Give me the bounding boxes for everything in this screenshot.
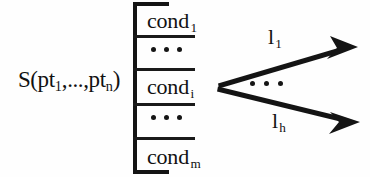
- upper-arrow-label-subscript: 1: [274, 36, 282, 51]
- arrow-group: [0, 0, 370, 177]
- lower-arrow-label: lh: [272, 110, 286, 134]
- lower-arrow-label-subscript: h: [278, 120, 286, 135]
- lower-arrow-head: [329, 112, 360, 134]
- ellipsis-dot: [250, 81, 255, 86]
- arrow-ellipsis: [250, 81, 283, 86]
- upper-arrow-head: [327, 36, 358, 59]
- figure-canvas: S(pt1,...,ptn) cond1 condi: [0, 0, 370, 177]
- ellipsis-dot: [278, 81, 283, 86]
- ellipsis-dot: [264, 81, 269, 86]
- upper-arrow-label: l1: [268, 26, 282, 50]
